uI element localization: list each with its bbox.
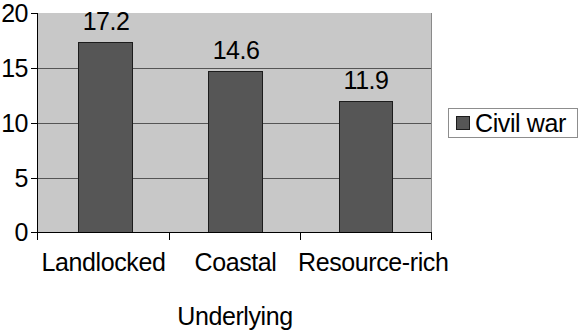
bar-value-coastal: 14.6 — [196, 38, 276, 63]
bottom-caption: Underlying — [0, 302, 470, 330]
y-tick-label-5: 5 — [0, 166, 28, 191]
bar-coastal — [208, 71, 263, 233]
bar-value-landlocked: 17.2 — [66, 9, 146, 34]
y-axis-line — [37, 13, 38, 233]
y-tick-mark-10 — [31, 123, 37, 124]
y-tick-label-20: 20 — [0, 1, 28, 26]
y-tick-label-15: 15 — [0, 56, 28, 81]
x-tick-label-coastal: Coastal — [170, 248, 301, 276]
x-tick-mark-3 — [431, 233, 432, 240]
bar-value-resource-rich: 11.9 — [326, 68, 406, 93]
x-tick-mark-0 — [37, 233, 38, 240]
y-tick-label-10: 10 — [0, 111, 28, 136]
x-tick-mark-1 — [169, 233, 170, 240]
legend-swatch-icon — [456, 116, 470, 130]
x-tick-mark-2 — [300, 233, 301, 240]
x-tick-label-landlocked: Landlocked — [38, 248, 169, 276]
x-axis-line — [37, 232, 432, 233]
bar-resource-rich — [339, 101, 393, 233]
legend: Civil war — [448, 108, 578, 138]
legend-label-civil-war: Civil war — [475, 111, 566, 136]
y-tick-mark-20 — [31, 13, 37, 14]
x-tick-label-resource-rich: Resource-rich — [298, 248, 433, 276]
y-tick-label-0: 0 — [0, 220, 28, 245]
bar-landlocked — [78, 42, 133, 233]
y-tick-mark-5 — [31, 178, 37, 179]
y-tick-mark-15 — [31, 68, 37, 69]
